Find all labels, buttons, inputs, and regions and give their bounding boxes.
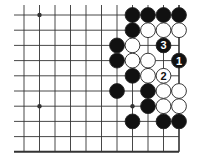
white-stone: [141, 53, 156, 68]
white-stone: [125, 38, 140, 53]
move-number: 3: [160, 39, 166, 51]
black-stone: [125, 23, 140, 38]
stones: 312: [110, 8, 187, 129]
star-point: [37, 13, 41, 17]
white-stone: [141, 23, 156, 38]
black-stone: [172, 114, 187, 129]
black-stone-1: 1: [172, 53, 187, 68]
black-stone: [125, 68, 140, 83]
black-stone: [110, 84, 125, 99]
white-stone: [141, 68, 156, 83]
black-stone: [141, 8, 156, 23]
black-stone: [125, 8, 140, 23]
white-stone-2: 2: [156, 68, 171, 83]
black-stone: [125, 114, 140, 129]
black-stone: [156, 8, 171, 23]
white-stone: [172, 84, 187, 99]
move-number: 1: [176, 55, 182, 67]
white-stone: [156, 23, 171, 38]
move-number: 2: [160, 70, 166, 82]
go-board-diagram: 312: [0, 0, 201, 166]
white-stone: [156, 99, 171, 114]
black-stone: [110, 53, 125, 68]
black-stone: [141, 99, 156, 114]
white-stone: [172, 23, 187, 38]
black-stone: [141, 84, 156, 99]
black-stone-3: 3: [156, 38, 171, 53]
star-point: [37, 104, 41, 108]
black-stone: [110, 38, 125, 53]
white-stone: [172, 99, 187, 114]
star-point: [130, 104, 134, 108]
black-stone: [156, 114, 171, 129]
white-stone: [125, 53, 140, 68]
black-stone: [172, 8, 187, 23]
white-stone: [156, 84, 171, 99]
